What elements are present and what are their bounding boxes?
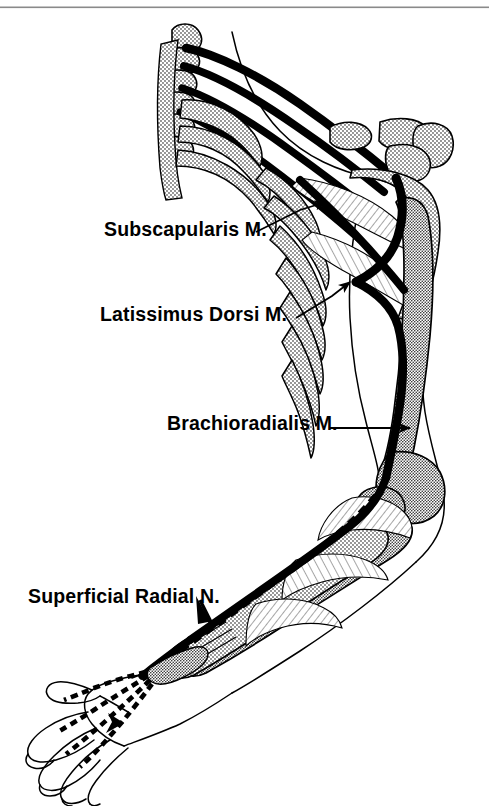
label-brachioradialis-muscle: Brachioradialis M. <box>167 414 338 434</box>
carpal-and-metacarpal-bones <box>147 647 208 684</box>
anatomical-figure: Subscapularis M. Latissimus Dorsi M. Bra… <box>0 0 489 806</box>
anatomy-illustration <box>0 0 489 806</box>
top-divider-rule <box>0 7 489 9</box>
brachioradialis-muscle <box>246 497 412 646</box>
label-latissimus-dorsi-muscle: Latissimus Dorsi M. <box>100 305 287 325</box>
label-subscapularis-muscle: Subscapularis M. <box>104 220 267 240</box>
rib-cage <box>176 100 329 458</box>
label-superficial-radial-nerve: Superficial Radial N. <box>28 587 220 607</box>
dorsal-digital-nerve-branches <box>58 672 152 767</box>
